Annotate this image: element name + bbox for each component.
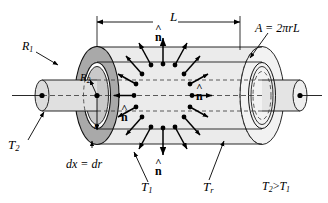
leader-line bbox=[28, 112, 44, 140]
unit-normal-label-bottom: ˄ n bbox=[155, 160, 162, 177]
unit-normal-label-right: ˄ n bbox=[196, 85, 203, 102]
length-label: L bbox=[170, 10, 177, 23]
outer-temperature-label: T1 bbox=[141, 180, 153, 194]
leader-line bbox=[134, 152, 148, 182]
unit-normal-label-left: ˄ n bbox=[121, 106, 128, 123]
outer-radius-label: R1 bbox=[22, 40, 33, 54]
radius-label: r bbox=[94, 120, 98, 131]
temperature-inequality: T2>T1 bbox=[262, 180, 290, 194]
heat-conduction-diagram: L A = 2πrL R1 R2 r T2 dx = dr T1 Tr T2>T… bbox=[0, 0, 328, 203]
axis-center-dot bbox=[297, 93, 302, 98]
unit-normal-label-top: ˄ n bbox=[155, 26, 162, 43]
leader-line bbox=[209, 141, 224, 180]
inner-radius-label: R2 bbox=[80, 72, 90, 85]
axis-center-dot bbox=[39, 93, 44, 98]
leader-line bbox=[36, 52, 58, 65]
area-label: A = 2πrL bbox=[255, 22, 300, 34]
surface-temperature-label: Tr bbox=[203, 180, 214, 194]
thickness-label: dx = dr bbox=[66, 158, 102, 170]
length-dimension bbox=[97, 16, 240, 50]
inner-temperature-label: T2 bbox=[8, 138, 20, 152]
